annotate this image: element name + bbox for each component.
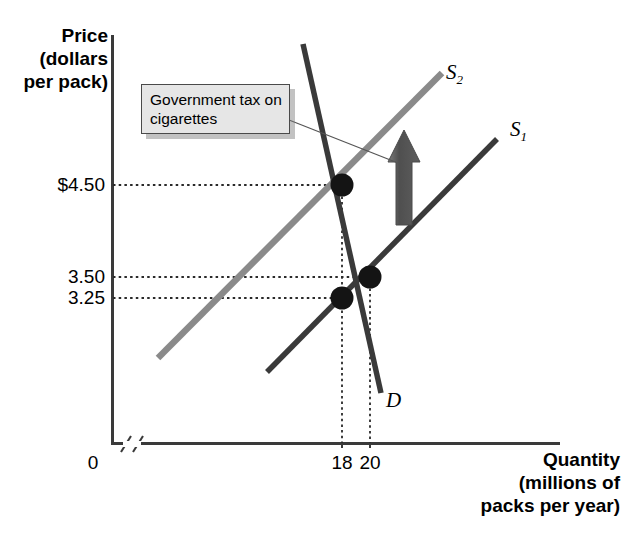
curve-label-s1: S1: [510, 117, 527, 145]
marker-original-equilibrium-20-350: [359, 266, 382, 289]
curve-label-s2-base: S: [446, 60, 457, 84]
marker-seller-price-18-325: [331, 287, 354, 310]
curve-label-s2: S2: [446, 60, 463, 88]
supply-curve-s1: [267, 139, 497, 372]
y-tick-label-325: 3.25: [10, 287, 105, 309]
curve-label-d: D: [386, 388, 401, 413]
curve-label-s1-subscript: 1: [521, 129, 528, 144]
y-axis-title: Price (dollars per pack): [8, 24, 108, 93]
x-tick-label-20: 20: [350, 452, 390, 474]
supply-shift-arrow-icon: [388, 130, 420, 225]
x-axis-title: Quantity (millions of packs per year): [414, 448, 620, 517]
curve-label-s2-subscript: 2: [457, 72, 464, 87]
y-tick-label-450: $4.50: [10, 174, 105, 196]
marker-new-equilibrium-18-450: [331, 174, 354, 197]
supply-demand-figure: Price (dollars per pack) Quantity (milli…: [0, 0, 624, 551]
curve-label-s1-base: S: [510, 117, 521, 141]
y-tick-label-350: 3.50: [10, 266, 105, 288]
guide-lines: [113, 185, 370, 443]
callout-text: Government tax on cigarettes: [150, 90, 285, 128]
callout-leader-line: [289, 120, 398, 163]
origin-label: 0: [80, 452, 106, 474]
